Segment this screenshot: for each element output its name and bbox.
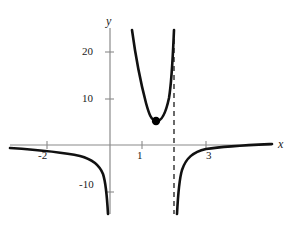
x-tick-label-minus-2: -2 <box>38 150 47 161</box>
local-minimum-point-marker <box>152 117 160 125</box>
y-tick-label-10: 10 <box>82 93 93 104</box>
y-tick-label-minus-10: -10 <box>79 179 94 190</box>
curve-middle-branch <box>132 30 174 121</box>
plot-canvas <box>0 0 296 229</box>
function-plot-figure: 20 10 -10 -2 1 3 y x <box>0 0 296 229</box>
y-tick-label-20: 20 <box>82 46 93 57</box>
y-axis-label: y <box>106 15 111 27</box>
x-tick-label-1: 1 <box>137 150 143 161</box>
x-axis-label: x <box>278 138 283 150</box>
curve-right-branch <box>177 144 272 214</box>
x-tick-label-3: 3 <box>206 150 212 161</box>
